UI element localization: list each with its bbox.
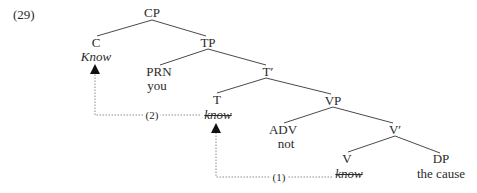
word-know-c: Know xyxy=(81,50,111,64)
node-adv: ADV xyxy=(269,123,297,137)
word-the-cause: the cause xyxy=(417,167,465,181)
branch-tp-prn xyxy=(160,49,208,65)
arrowhead-icon xyxy=(90,64,100,74)
node-prn: PRN xyxy=(146,65,171,79)
branch-cp-c xyxy=(97,20,152,36)
branch-vbar-v xyxy=(348,136,395,152)
word-not: not xyxy=(278,137,295,151)
node-tp: TP xyxy=(200,36,215,50)
syntax-tree-diagram: (29) (2) (1) xyxy=(0,0,477,193)
node-cp: CP xyxy=(144,6,160,20)
node-c: C xyxy=(92,36,101,50)
branch-vp-vbar xyxy=(333,107,393,123)
word-know-v-trace: know xyxy=(335,167,362,181)
movement-step-label: (2) xyxy=(144,109,161,121)
branch-tbar-vp xyxy=(266,78,331,94)
node-vbar: V′ xyxy=(389,123,401,137)
node-v: V xyxy=(342,152,351,166)
word-know-t-trace: know xyxy=(204,108,231,122)
node-vp: VP xyxy=(325,94,342,108)
arrowhead-icon xyxy=(211,123,221,133)
branch-cp-tp xyxy=(152,20,206,36)
node-dp: DP xyxy=(433,152,450,166)
movement-step-label: (1) xyxy=(271,171,288,183)
branch-vp-adv xyxy=(284,107,333,123)
node-t: T xyxy=(213,93,221,107)
word-you: you xyxy=(147,79,167,93)
branch-tp-tbar xyxy=(208,49,266,65)
node-tbar: T′ xyxy=(263,65,274,79)
tree-branches xyxy=(0,0,477,193)
branch-tbar-t xyxy=(217,78,266,93)
